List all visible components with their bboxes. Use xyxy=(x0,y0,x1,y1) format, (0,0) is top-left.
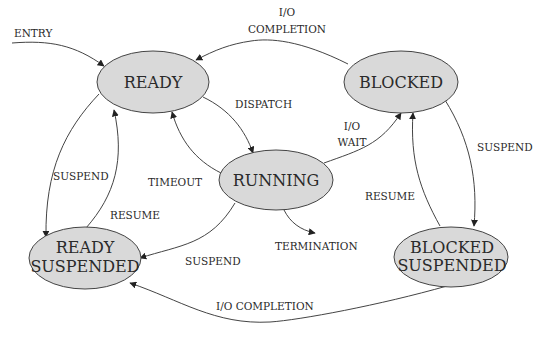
edge-suspend-ready xyxy=(46,94,99,237)
node-blocked-suspended-label-1: BLOCKED xyxy=(410,238,494,257)
node-blocked-suspended[interactable]: BLOCKED SUSPENDED xyxy=(394,227,508,287)
node-ready-suspended-label-2: SUSPENDED xyxy=(30,257,139,276)
node-blocked-suspended-label-2: SUSPENDED xyxy=(397,256,506,275)
node-ready-suspended-label-1: READY xyxy=(56,238,115,257)
label-io-completion-top-2: COMPLETION xyxy=(248,23,326,35)
label-resume-blocked: RESUME xyxy=(365,190,415,202)
node-running[interactable]: RUNNING xyxy=(219,150,333,210)
label-io-completion-top-1: I/O xyxy=(279,6,296,18)
label-io-wait-1: I/O xyxy=(344,120,361,132)
node-ready-label: READY xyxy=(124,73,183,92)
edge-timeout xyxy=(172,112,221,173)
edge-termination xyxy=(284,210,315,233)
node-ready[interactable]: READY xyxy=(97,51,209,113)
edge-io-completion-top xyxy=(196,40,348,64)
label-dispatch: DISPATCH xyxy=(235,98,292,110)
edge-suspend-blocked xyxy=(445,100,475,226)
label-resume-ready: RESUME xyxy=(110,209,160,221)
label-timeout: TIMEOUT xyxy=(148,176,202,188)
state-diagram: READY BLOCKED RUNNING READY SUSPENDED BL… xyxy=(0,0,544,343)
label-suspend-running: SUSPEND xyxy=(185,255,241,267)
label-suspend-blocked: SUSPEND xyxy=(477,141,533,153)
node-blocked-label: BLOCKED xyxy=(359,73,443,92)
label-entry: ENTRY xyxy=(14,27,53,39)
edge-entry xyxy=(12,42,104,66)
label-termination: TERMINATION xyxy=(275,240,358,252)
label-io-wait-2: WAIT xyxy=(337,136,366,148)
edge-resume-blocked xyxy=(412,113,440,226)
node-running-label: RUNNING xyxy=(233,171,320,190)
node-blocked[interactable]: BLOCKED xyxy=(344,51,458,113)
label-io-completion-bottom: I/O COMPLETION xyxy=(216,300,314,312)
label-suspend-ready: SUSPEND xyxy=(53,170,109,182)
node-ready-suspended[interactable]: READY SUSPENDED xyxy=(29,227,141,289)
